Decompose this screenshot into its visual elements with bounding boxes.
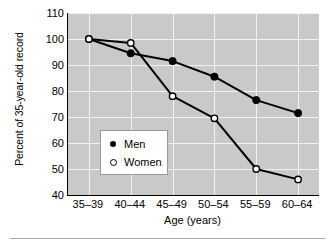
data-point-women [211, 115, 217, 121]
chart-figure: Percent of 35-year-old record 4050607080… [0, 0, 334, 248]
legend-label-women: Women [124, 157, 162, 168]
data-point-women [169, 93, 175, 99]
data-point-men [169, 58, 176, 65]
y-tick-label: 80 [26, 86, 64, 97]
data-point-men [294, 110, 301, 117]
legend-label-men: Men [124, 139, 145, 150]
data-point-women [295, 176, 301, 182]
data-point-men [127, 50, 134, 57]
filled-circle-icon [106, 141, 120, 147]
y-tick-label: 70 [26, 112, 64, 123]
y-tick-label: 60 [26, 138, 64, 149]
bottom-divider [10, 238, 325, 239]
data-point-men [253, 97, 260, 104]
data-point-women [253, 166, 259, 172]
data-point-women [128, 40, 134, 46]
x-axis-title: Age (years) [67, 214, 318, 226]
y-tick-label: 100 [26, 34, 64, 45]
x-axis-tick-labels: 35–3940–4445–4950–5455–5960–64 [0, 198, 334, 214]
series-line-men [89, 39, 298, 113]
data-point-men [211, 73, 218, 80]
legend-item-men: Men [101, 135, 167, 153]
y-tick-label: 90 [26, 60, 64, 71]
y-tick-label: 110 [26, 8, 64, 19]
legend: Men Women [100, 130, 168, 175]
open-circle-icon [106, 159, 120, 166]
data-point-women [86, 36, 92, 42]
y-tick-label: 50 [26, 164, 64, 175]
legend-item-women: Women [101, 153, 167, 171]
x-tick-label: 60–64 [267, 198, 327, 210]
